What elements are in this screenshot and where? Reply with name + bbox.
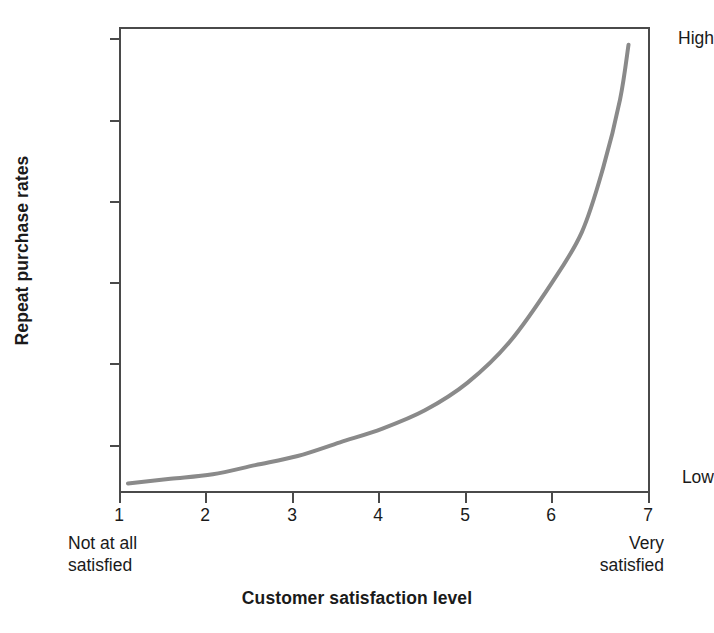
chart-figure: Repeat purchase rates High Low 1 2 3 4 5… [0,0,714,633]
x-axis-caption-right-line2: satisfied [520,554,664,576]
x-axis-tick [378,493,380,503]
plot-area [119,27,650,493]
x-axis-caption-right: Very satisfied [520,532,664,576]
data-curve [119,27,650,493]
y-axis-title-text: Repeat purchase rates [13,155,34,345]
x-axis-caption-right-line1: Very [520,532,664,554]
x-tick-label-7: 7 [628,505,668,526]
x-axis-tick [551,493,553,503]
y-axis-tick [110,445,119,447]
x-axis-caption-left-line2: satisfied [68,554,228,576]
curve-path [128,45,629,484]
x-axis-tick [119,493,121,503]
x-axis-tick [205,493,207,503]
x-axis-tick [465,493,467,503]
y-axis-tick [110,201,119,203]
y-axis-title: Repeat purchase rates [0,0,46,500]
y-axis-tick [110,363,119,365]
x-tick-label-2: 2 [185,505,225,526]
x-axis-tick [292,493,294,503]
y-axis-tick [110,38,119,40]
x-tick-label-5: 5 [445,505,485,526]
x-tick-label-6: 6 [531,505,571,526]
x-axis-tick [648,493,650,503]
y-tick-label-high: High [644,28,714,48]
x-axis-caption-left: Not at all satisfied [68,532,228,576]
x-tick-label-3: 3 [272,505,312,526]
x-axis-title: Customer satisfaction level [0,588,714,609]
x-tick-label-1: 1 [99,505,139,526]
y-tick-label-low: Low [644,467,714,487]
y-axis-tick [110,120,119,122]
x-tick-label-4: 4 [358,505,398,526]
y-axis-tick [110,282,119,284]
x-axis-caption-left-line1: Not at all [68,532,228,554]
